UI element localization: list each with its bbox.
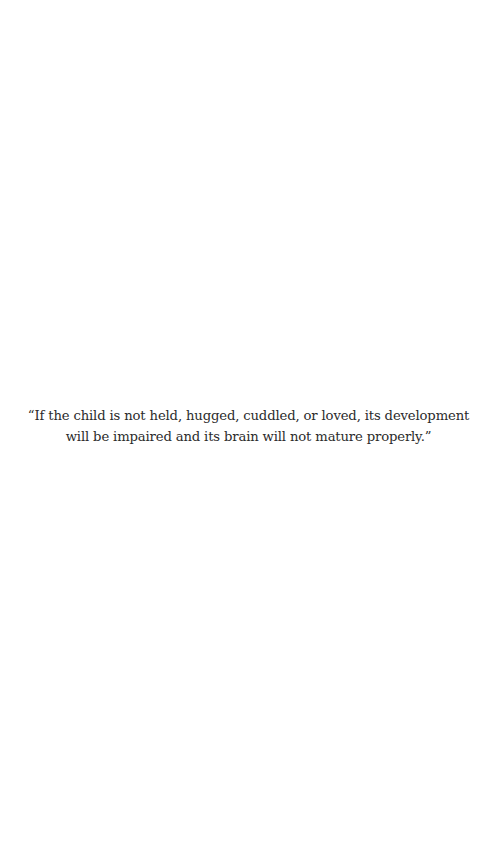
- quote-text: “If the child is not held, hugged, cuddl…: [20, 405, 477, 447]
- page: “If the child is not held, hugged, cuddl…: [0, 0, 497, 868]
